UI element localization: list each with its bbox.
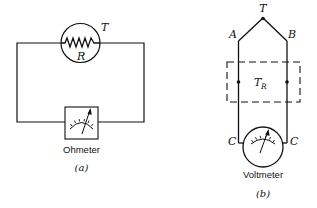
label-b-T: T (259, 2, 268, 15)
label-TR-sub: R (260, 82, 267, 91)
voltmeter-scale-arc (251, 139, 275, 144)
label-a-R: R (76, 50, 85, 63)
label-C-left: C (228, 135, 237, 148)
voltmeter-needle-arrow-icon (265, 129, 269, 136)
caption-a: (a) (75, 162, 89, 173)
ohmeter-needle-arrow-icon (88, 108, 92, 115)
reference-dot-left (237, 80, 241, 84)
thermometer-circuits-diagram: T R Ohmeter (a) T A B T R (0, 0, 317, 208)
junction-dot-T (261, 17, 265, 21)
figure-a (17, 24, 144, 140)
caption-b: (b) (256, 188, 270, 199)
voltmeter-circle (243, 127, 283, 167)
label-B: B (287, 28, 296, 41)
label-A: A (228, 28, 237, 41)
label-a-T: T (101, 21, 110, 34)
wire-a-top-left (17, 43, 65, 122)
label-TR: T R (254, 76, 267, 91)
thermocouple-wires (239, 18, 288, 41)
resistor-icon (61, 38, 100, 47)
ohmeter-label: Ohmeter (63, 144, 100, 155)
voltmeter-label: Voltmeter (243, 169, 283, 180)
reference-dot-right (285, 80, 289, 84)
wire-a-top-right (98, 43, 144, 122)
label-C-right: C (290, 135, 299, 148)
ohmeter-scale-arc (70, 123, 93, 130)
